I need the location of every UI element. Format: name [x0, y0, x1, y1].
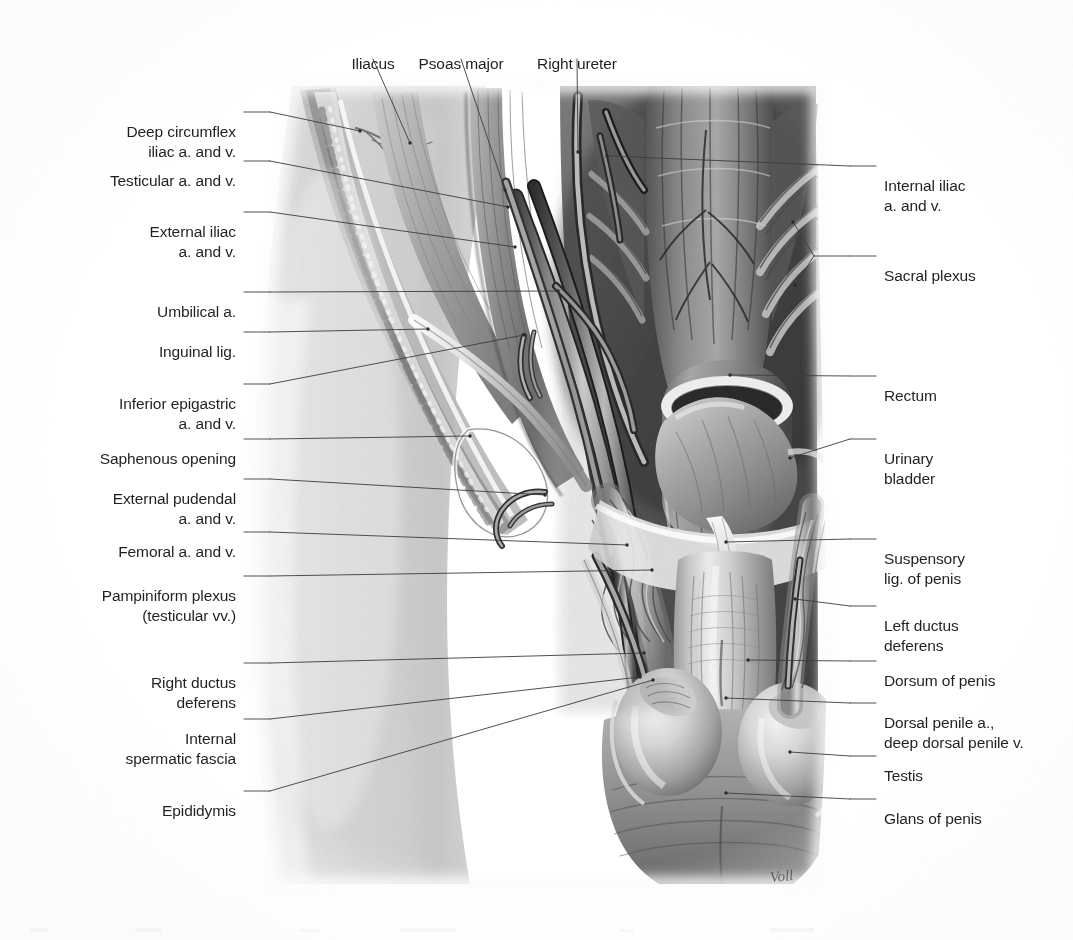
label-right-ureter-text: Right ureter [537, 55, 617, 72]
label-inferior-epigastric: Inferior epigastric a. and v. [119, 373, 236, 435]
label-epididymis: Epididymis [162, 780, 236, 821]
label-dorsum-of-penis-text: Dorsum of penis [884, 672, 995, 689]
label-saphenous-opening-text: Saphenous opening [100, 450, 236, 467]
label-external-iliac-a-v: External iliac a. and v. [150, 201, 236, 263]
label-pampiniform-plexus-text: Pampiniform plexus (testicular vv.) [102, 587, 236, 625]
label-testis-text: Testis [884, 767, 923, 784]
label-femoral-a-v-text: Femoral a. and v. [118, 543, 236, 560]
label-suspensory-lig-penis-text: Suspensory lig. of penis [884, 550, 965, 588]
label-glans-of-penis-text: Glans of penis [884, 810, 982, 827]
artist-signature: Voll [769, 867, 794, 886]
label-urinary-bladder: Urinary bladder [884, 428, 935, 490]
label-right-ductus-deferens: Right ductus deferens [151, 652, 236, 714]
label-rectum: Rectum [884, 365, 937, 406]
label-dorsum-of-penis: Dorsum of penis [884, 650, 995, 691]
label-psoas-major: Psoas major [418, 33, 503, 74]
label-inguinal-lig-text: Inguinal lig. [159, 343, 236, 360]
label-femoral-a-v: Femoral a. and v. [118, 521, 236, 562]
label-internal-spermatic-fascia-text: Internal spermatic fascia [126, 730, 236, 768]
label-urinary-bladder-text: Urinary bladder [884, 450, 935, 488]
label-inferior-epigastric-text: Inferior epigastric a. and v. [119, 395, 236, 433]
label-right-ureter: Right ureter [537, 33, 617, 74]
label-right-ductus-deferens-text: Right ductus deferens [151, 674, 236, 712]
label-left-ductus-deferens-text: Left ductus deferens [884, 617, 959, 655]
label-testicular-a-v-text: Testicular a. and v. [110, 172, 236, 189]
figure-page: Iliacus Psoas major Right ureter Deep ci… [0, 0, 1073, 940]
label-pampiniform-plexus: Pampiniform plexus (testicular vv.) [102, 565, 236, 627]
label-left-ductus-deferens: Left ductus deferens [884, 595, 959, 657]
label-internal-spermatic-fascia: Internal spermatic fascia [126, 708, 236, 770]
label-testis: Testis [884, 745, 923, 786]
label-iliacus-text: Iliacus [351, 55, 394, 72]
label-umbilical-a-text: Umbilical a. [157, 303, 236, 320]
label-sacral-plexus: Sacral plexus [884, 245, 976, 286]
label-umbilical-a: Umbilical a. [157, 281, 236, 322]
label-iliacus: Iliacus [351, 33, 394, 74]
label-testicular-a-v: Testicular a. and v. [110, 150, 236, 191]
label-sacral-plexus-text: Sacral plexus [884, 267, 976, 284]
label-psoas-major-text: Psoas major [418, 55, 503, 72]
label-rectum-text: Rectum [884, 387, 937, 404]
label-saphenous-opening: Saphenous opening [100, 428, 236, 469]
label-internal-iliac-a-v: Internal iliac a. and v. [884, 155, 965, 217]
label-suspensory-lig-penis: Suspensory lig. of penis [884, 528, 965, 590]
label-epididymis-text: Epididymis [162, 802, 236, 819]
label-inguinal-lig: Inguinal lig. [159, 321, 236, 362]
label-glans-of-penis: Glans of penis [884, 788, 982, 829]
label-internal-iliac-a-v-text: Internal iliac a. and v. [884, 177, 965, 215]
label-external-iliac-a-v-text: External iliac a. and v. [150, 223, 236, 261]
